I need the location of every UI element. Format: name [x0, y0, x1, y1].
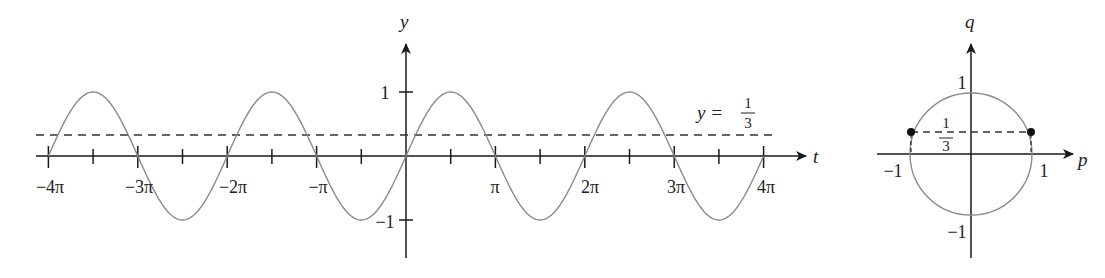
q-tick-label-neg1: −1: [947, 222, 966, 242]
unit-circle-plot: q p 1 −1 −1 1 1 3: [877, 11, 1088, 258]
x-tick-label-negpi: −π: [308, 177, 327, 197]
x-tick-label-4pi: 4π: [757, 177, 775, 197]
x-tick-label-neg3pi: −3π: [125, 177, 153, 197]
x-tick-label-neg4pi: −4π: [36, 177, 64, 197]
q-tick-label-1: 1: [958, 73, 967, 93]
x-tick-label-3pi: 3π: [667, 177, 685, 197]
sine-plot: y t 1 −1 −4π −3π −2π −π π 2π 3π 4π y = 1…: [36, 11, 819, 258]
x-tick-label-pi: π: [490, 177, 499, 197]
hline-label-lhs: y =: [695, 102, 723, 123]
intersection-point-right: [1027, 128, 1035, 136]
frac-num: 1: [942, 115, 950, 131]
y-tick-label-1: 1: [381, 83, 390, 103]
t-axis-label: t: [813, 146, 819, 167]
p-axis-label: p: [1076, 149, 1088, 170]
intersection-point-left: [907, 128, 915, 136]
hline-label-den: 3: [744, 115, 752, 131]
y-axis-label: y: [398, 11, 409, 32]
frac-den: 3: [942, 138, 950, 154]
p-tick-label-1: 1: [1040, 161, 1049, 181]
x-tick-label-neg2pi: −2π: [219, 177, 247, 197]
hline-label-num: 1: [744, 95, 752, 111]
x-tick-label-2pi: 2π: [581, 177, 599, 197]
figure: y t 1 −1 −4π −3π −2π −π π 2π 3π 4π y = 1…: [0, 0, 1105, 278]
y-tick-label-neg1: −1: [375, 212, 394, 232]
p-tick-label-neg1: −1: [883, 161, 902, 181]
q-axis-label: q: [965, 11, 975, 32]
